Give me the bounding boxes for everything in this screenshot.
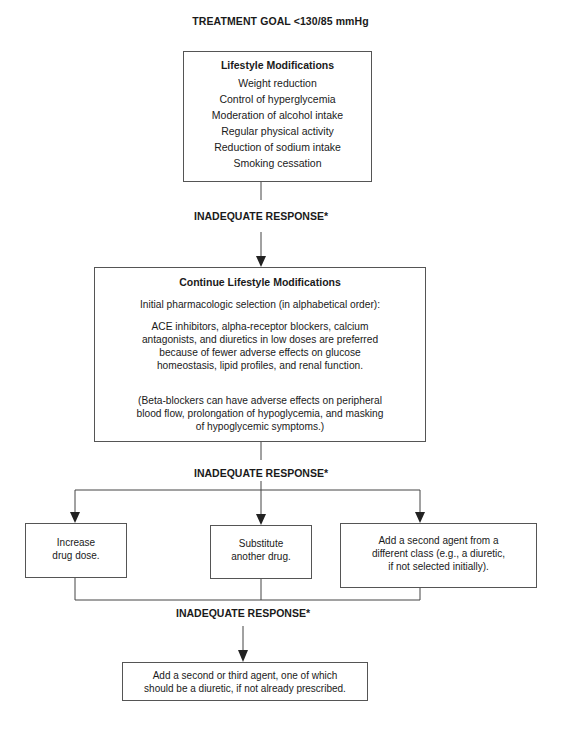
option-line: different class (e.g., a diuretic, — [341, 547, 536, 560]
option-line: another drug. — [211, 550, 311, 563]
paragraph-line: blood flow, prolongation of hypoglycemia… — [95, 407, 425, 420]
preferred-agents-paragraph: ACE inhibitors, alpha-receptor blockers,… — [95, 320, 425, 372]
option-line: Increase — [26, 536, 126, 549]
option-add-second-agent-box: Add a second agent from a different clas… — [340, 523, 537, 588]
lifestyle-item: Regular physical activity — [184, 123, 371, 139]
inadequate-response-label-1: INADEQUATE RESPONSE* — [161, 210, 361, 222]
option-line: drug dose. — [26, 549, 126, 562]
final-add-agent-box: Add a second or third agent, one of whic… — [122, 662, 368, 701]
paragraph-line: of hypoglycemic symptoms.) — [95, 420, 425, 433]
lifestyle-item: Reduction of sodium intake — [184, 139, 371, 155]
inadequate-response-label-3: INADEQUATE RESPONSE* — [143, 607, 343, 619]
option-line: if not selected initially). — [341, 560, 536, 573]
pharmacologic-selection-subtitle: Initial pharmacologic selection (in alph… — [95, 298, 425, 311]
option-substitute-drug-box: Substitute another drug. — [210, 525, 312, 579]
continue-box-title: Continue Lifestyle Modifications — [95, 276, 425, 288]
paragraph-line: antagonists, and diuretics in low doses … — [95, 333, 425, 346]
lifestyle-modifications-box: Lifestyle Modifications Weight reduction… — [183, 51, 372, 182]
paragraph-line: ACE inhibitors, alpha-receptor blockers,… — [95, 320, 425, 333]
beta-blocker-note: (Beta-blockers can have adverse effects … — [95, 394, 425, 433]
paragraph-line: (Beta-blockers can have adverse effects … — [95, 394, 425, 407]
option-increase-dose-box: Increase drug dose. — [25, 523, 127, 578]
option-line: Add a second agent from a — [341, 534, 536, 547]
lifestyle-box-title: Lifestyle Modifications — [184, 59, 371, 71]
lifestyle-item: Control of hyperglycemia — [184, 91, 371, 107]
lifestyle-item: Smoking cessation — [184, 155, 371, 171]
lifestyle-item: Weight reduction — [184, 75, 371, 91]
inadequate-response-label-2: INADEQUATE RESPONSE* — [161, 467, 361, 479]
option-line: Substitute — [211, 537, 311, 550]
continue-lifestyle-box: Continue Lifestyle Modifications Initial… — [94, 267, 426, 442]
final-line: Add a second or third agent, one of whic… — [123, 669, 367, 682]
final-line: should be a diuretic, if not already pre… — [123, 682, 367, 695]
paragraph-line: homeostasis, lipid profiles, and renal f… — [95, 359, 425, 372]
treatment-goal-title: TREATMENT GOAL <130/85 mmHg — [0, 15, 561, 27]
paragraph-line: because of fewer adverse effects on gluc… — [95, 346, 425, 359]
lifestyle-item: Moderation of alcohol intake — [184, 107, 371, 123]
